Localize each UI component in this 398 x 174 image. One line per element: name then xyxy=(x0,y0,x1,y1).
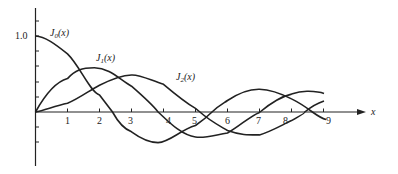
x-tick-label: 9 xyxy=(326,115,331,126)
y-tick-label: 1.0 xyxy=(15,30,28,41)
j0-curve xyxy=(36,36,327,143)
x-axis-label: x xyxy=(370,106,376,117)
x-tick-label: 7 xyxy=(256,115,261,126)
x-tick-label: 1 xyxy=(65,115,70,126)
x-tick-label: 3 xyxy=(128,115,133,126)
x-axis-arrow-icon xyxy=(357,109,366,115)
x-tick-label: 2 xyxy=(97,115,102,126)
x-tick-label: 6 xyxy=(225,115,230,126)
j2-label: J2(x) xyxy=(176,71,196,84)
bessel-chart: 1 2 3 4 5 6 7 8 9 1.0 x J0(x) J1(x) J2(x… xyxy=(0,0,398,174)
j0-label: J0(x) xyxy=(50,27,70,40)
j1-label: J1(x) xyxy=(96,52,116,65)
